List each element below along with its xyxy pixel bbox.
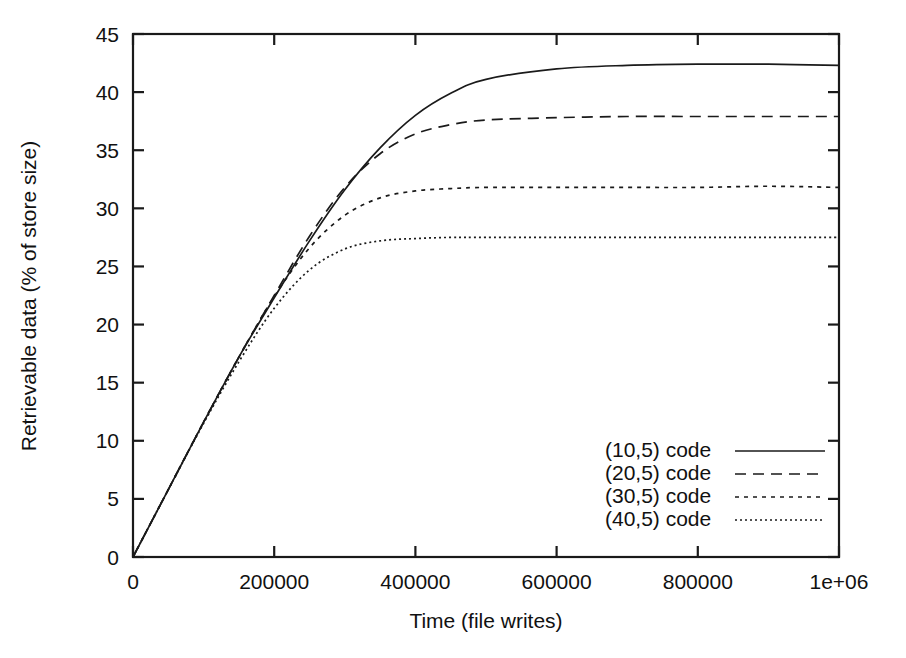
y-tick-label: 20 (96, 313, 119, 336)
y-tick-label: 0 (107, 546, 119, 569)
y-tick-label: 10 (96, 429, 119, 452)
x-axis-title: Time (file writes) (409, 609, 562, 632)
chart-background (0, 0, 906, 658)
y-tick-label: 15 (96, 371, 119, 394)
x-tick-label: 400000 (380, 570, 450, 593)
x-tick-label: 1e+06 (810, 570, 869, 593)
legend-label-3: (30,5) code (605, 484, 711, 507)
y-tick-label: 40 (96, 81, 119, 104)
legend-label-1: (10,5) code (605, 438, 711, 461)
x-tick-label: 0 (127, 570, 139, 593)
chart-figure: 051015202530354045 020000040000060000080… (0, 0, 906, 658)
y-axis-title: Retrievable data (% of store size) (17, 141, 40, 451)
line-chart-canvas: 051015202530354045 020000040000060000080… (0, 0, 906, 658)
x-tick-label: 200000 (239, 570, 309, 593)
legend-label-4: (40,5) code (605, 507, 711, 530)
y-tick-label: 30 (96, 197, 119, 220)
y-tick-label: 5 (107, 487, 119, 510)
legend-label-2: (20,5) code (605, 461, 711, 484)
x-tick-label: 800000 (663, 570, 733, 593)
y-tick-label: 45 (96, 23, 119, 46)
y-tick-label: 25 (96, 255, 119, 278)
y-tick-label: 35 (96, 139, 119, 162)
x-tick-label: 600000 (522, 570, 592, 593)
